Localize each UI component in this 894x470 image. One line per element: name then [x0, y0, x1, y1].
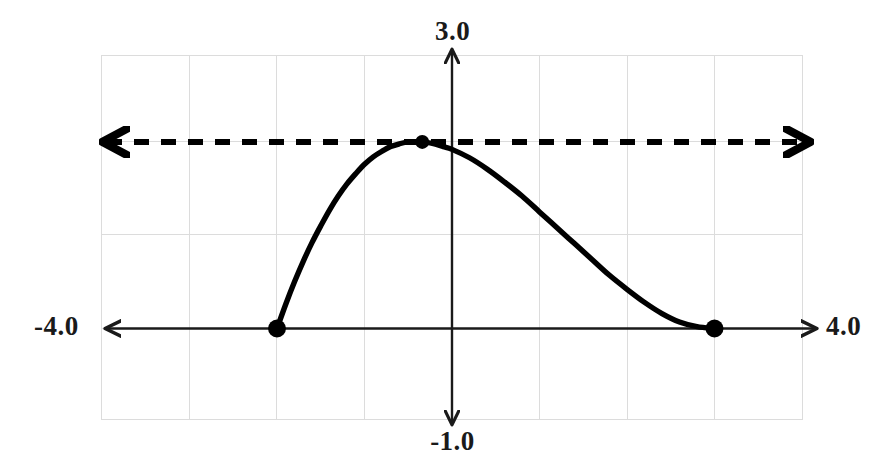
x-axis-min-label: -4.0 [34, 313, 112, 340]
y-axis-max-label: 3.0 [400, 18, 505, 45]
x-axis-max-label: 4.0 [826, 313, 894, 340]
graph-canvas: 3.0 -1.0 -4.0 4.0 [0, 0, 894, 470]
point-right-root [706, 320, 724, 338]
plot-svg [0, 0, 894, 470]
point-left-root [268, 320, 286, 338]
point-vertex [415, 135, 429, 149]
y-axis-min-label: -1.0 [400, 428, 505, 455]
